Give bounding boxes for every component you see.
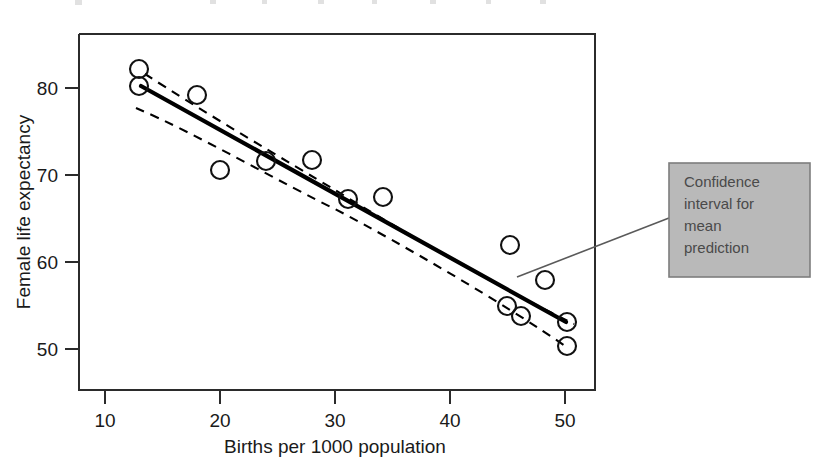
x-axis-ticks [105,390,565,404]
data-point [501,236,519,254]
callout-line-1: Confidence [684,173,760,190]
y-axis-tick-labels: 80 70 60 50 [37,78,58,360]
x-tick-label-30: 30 [324,410,345,431]
plot-frame [79,34,595,390]
y-tick-label-70: 70 [37,165,58,186]
y-tick-label-50: 50 [37,339,58,360]
data-point [211,161,229,179]
x-tick-label-20: 20 [209,410,230,431]
callout-leader-line [517,218,669,277]
data-point [558,337,576,355]
data-point [374,188,392,206]
data-points [130,60,576,355]
y-axis-title: Female life expectancy [13,114,34,309]
x-axis-title: Births per 1000 population [224,436,446,457]
y-tick-label-80: 80 [37,78,58,99]
data-point [188,86,206,104]
ci-lower-band [136,108,568,348]
callout-line-4: prediction [684,239,749,256]
x-axis-tick-labels: 10 20 30 40 50 [94,410,575,431]
y-tick-label-60: 60 [37,252,58,273]
callout-line-2: interval for [684,195,754,212]
callout-line-3: mean [684,217,722,234]
scatter-plot-figure: 80 70 60 50 10 20 30 40 50 Births per 10… [0,0,817,458]
x-tick-label-10: 10 [94,410,115,431]
x-tick-label-50: 50 [554,410,575,431]
top-edge-artifact [75,0,546,5]
data-point [536,271,554,289]
x-tick-label-40: 40 [439,410,460,431]
data-point [303,151,321,169]
ci-upper-band [145,74,574,324]
plot-svg: 80 70 60 50 10 20 30 40 50 Births per 10… [0,0,817,458]
data-point [130,60,148,78]
y-axis-ticks [65,88,79,349]
regression-fit-line [141,86,566,322]
